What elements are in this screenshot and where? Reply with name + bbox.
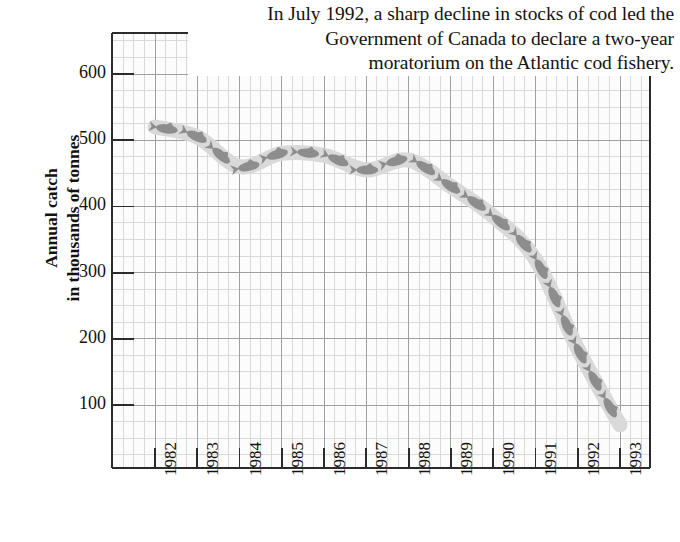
x-tick-label: 1987 xyxy=(372,416,392,476)
x-tick-label: 1992 xyxy=(584,416,604,476)
chart-figure: In July 1992, a sharp decline in stocks … xyxy=(0,0,680,542)
x-tick-label: 1990 xyxy=(499,416,519,476)
x-tick-label: 1988 xyxy=(415,416,435,476)
x-tick-label: 1985 xyxy=(288,416,308,476)
x-tick-label: 1982 xyxy=(161,416,181,476)
x-axis-tick-labels: 1982198319841985198619871988198919901991… xyxy=(0,0,680,542)
annotation-text: In July 1992, a sharp decline in stocks … xyxy=(196,2,674,76)
annotation-line-3: moratorium on the Atlantic cod fishery. xyxy=(196,51,674,76)
x-tick-label: 1986 xyxy=(330,416,350,476)
annotation-line-2: Government of Canada to declare a two-ye… xyxy=(196,27,674,52)
x-tick-label: 1984 xyxy=(246,416,266,476)
x-tick-label: 1983 xyxy=(203,416,223,476)
x-tick-label: 1993 xyxy=(626,416,646,476)
x-tick-label: 1989 xyxy=(457,416,477,476)
x-tick-label: 1991 xyxy=(541,416,561,476)
annotation-line-1: In July 1992, a sharp decline in stocks … xyxy=(196,2,674,27)
